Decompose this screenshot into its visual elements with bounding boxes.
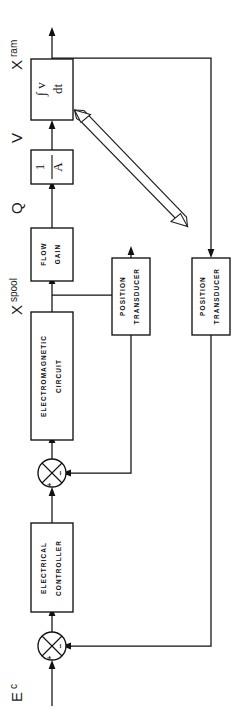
signal-label-flow-base: Q: [8, 202, 25, 214]
outer-summing-junction[interactable]: + −: [38, 632, 66, 660]
signal-label-command-voltage: E c: [8, 684, 25, 702]
block-integrator-line-0: dt: [50, 84, 65, 95]
diagram-svg: dt ∫ v 1 A FLOW GAIN ELECTROMAGNETIC CIR…: [0, 0, 235, 716]
block-area-gain-denominator: A: [50, 162, 65, 172]
block-electromagnetic-circuit-line-1: CIRCUIT: [55, 359, 62, 393]
signal-label-x-spool-sub: spool: [8, 278, 19, 302]
block-position-transducer-outer-outline: [192, 258, 230, 335]
arrowhead-inner-feedback-into-transducer: [128, 246, 135, 255]
block-electrical-controller-outline: [31, 523, 73, 612]
pointer-arrow-shape: [75, 110, 188, 227]
arrowhead-outer-feedback-into-transducer: [208, 249, 215, 258]
block-position-transducer-outer[interactable]: POSITION TRANSDUCER: [192, 258, 230, 335]
block-electromagnetic-circuit-outline: [31, 312, 73, 440]
inner-summing-junction-minus: −: [56, 470, 65, 475]
inner-summing-junction-plus: +: [45, 482, 54, 487]
outer-summing-junction-minus: −: [56, 643, 65, 648]
wire-outer-feedback-bottom: [68, 335, 211, 646]
outer-summing-junction-plus: +: [45, 655, 54, 660]
block-position-transducer-inner-outline: [112, 258, 150, 335]
arrowhead-xram-output: [49, 27, 56, 36]
block-area-gain[interactable]: 1 A: [31, 150, 73, 184]
pointer-arrow: [75, 110, 188, 227]
signal-label-x-spool-base: X: [8, 305, 25, 315]
signal-label-velocity: V: [8, 133, 25, 143]
block-position-transducer-outer-line-0: POSITION: [199, 276, 206, 316]
block-electromagnetic-circuit[interactable]: ELECTROMAGNETIC CIRCUIT: [31, 312, 73, 440]
block-position-transducer-inner-line-1: TRANSDUCER: [133, 268, 140, 324]
arrowhead-controller-to-sum: [49, 487, 56, 496]
block-electrical-controller-line-1: CONTROLLER: [55, 540, 62, 596]
block-area-gain-numerator: 1: [32, 164, 47, 171]
signal-label-x-ram-base: X: [8, 60, 25, 70]
block-diagram-canvas: dt ∫ v 1 A FLOW GAIN ELECTROMAGNETIC CIR…: [0, 0, 235, 716]
signal-label-x-spool: X spool: [8, 278, 25, 315]
block-position-transducer-inner[interactable]: POSITION TRANSDUCER: [112, 258, 150, 335]
signal-label-velocity-base: V: [8, 133, 25, 143]
wire-inner-feedback-bottom: [68, 335, 131, 473]
block-electrical-controller[interactable]: ELECTRICAL CONTROLLER: [31, 523, 73, 612]
block-electrical-controller-line-0: ELECTRICAL: [40, 542, 47, 594]
arrowhead-ec-input: [49, 660, 56, 669]
signal-label-command-voltage-sub: c: [8, 684, 19, 689]
block-flow-gain-line-0: FLOW: [40, 242, 47, 265]
signal-label-command-voltage-base: E: [8, 692, 25, 702]
inner-summing-junction[interactable]: + −: [38, 459, 66, 487]
block-integrator-line-1: ∫ v: [33, 82, 49, 97]
arrowhead-area-to-integrator: [49, 120, 56, 129]
block-flow-gain-outline: [31, 228, 73, 281]
block-electromagnetic-circuit-line-0: ELECTROMAGNETIC: [40, 335, 47, 417]
block-position-transducer-inner-line-0: POSITION: [119, 276, 126, 316]
block-flow-gain-line-1: GAIN: [54, 244, 61, 265]
signal-label-x-ram-sub: ram: [8, 40, 19, 57]
block-flow-gain[interactable]: FLOW GAIN: [31, 228, 73, 281]
block-integrator[interactable]: dt ∫ v: [31, 59, 73, 120]
signal-label-x-ram: X ram: [8, 40, 25, 70]
block-position-transducer-outer-line-1: TRANSDUCER: [213, 268, 220, 324]
signal-label-flow: Q: [8, 202, 25, 214]
